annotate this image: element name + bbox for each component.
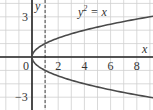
equation-annotation: y2 = x [77,4,107,19]
x-tick-label: 4 [81,59,87,73]
x-tick-label: 6 [108,59,114,73]
y-tick-label: 3 [22,10,28,24]
parabola-chart: 024683−3 x y y2 = x [0,0,153,110]
x-tick-label: 2 [55,59,61,73]
x-tick-label: 0 [23,59,29,73]
annotation-rest: = x [87,5,107,19]
x-tick-label: 8 [134,59,140,73]
y-tick-label: −3 [15,90,28,104]
x-axis-label: x [141,42,148,56]
y-axis-label: y [34,0,41,13]
